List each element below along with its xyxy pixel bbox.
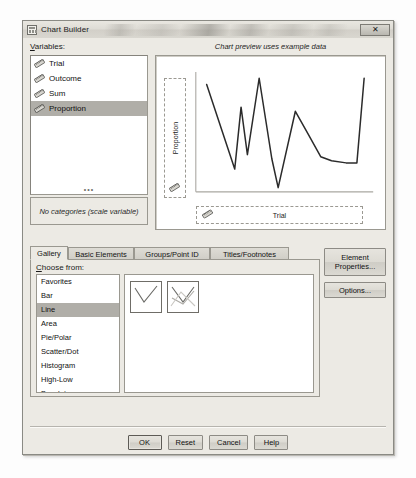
tab-label: Titles/Footnotes [223, 250, 276, 259]
variable-label: Outcome [49, 74, 81, 83]
preview-caption: Chart preview uses example data [155, 42, 386, 54]
x-axis-dropzone[interactable]: Trial [196, 206, 363, 224]
gallery-thumbnail-pane [124, 274, 314, 393]
tab-label: Groups/Point ID [145, 250, 198, 259]
variables-list-grip[interactable]: ••• [31, 187, 147, 193]
footer-button-bar: OK Reset Cancel Help [23, 432, 393, 452]
ok-button[interactable]: OK [128, 435, 162, 450]
gallery-tab-panel: Choose from: Favorites Bar Line Area Pie… [30, 259, 320, 397]
preview-plot [194, 70, 375, 199]
gallery-item-pie-polar[interactable]: Pie/Polar [37, 331, 119, 345]
page-background: Chart Builder ✕ Variables: Trial [0, 0, 416, 478]
gallery-item-area[interactable]: Area [37, 317, 119, 331]
variable-item-proportion[interactable]: Proportion [31, 101, 147, 116]
help-button[interactable]: Help [254, 435, 288, 450]
side-button-group: Element Properties... Options... [324, 248, 386, 298]
gallery-item-line[interactable]: Line [37, 303, 119, 317]
tab-gallery[interactable]: Gallery [30, 246, 68, 260]
scale-ruler-icon [34, 104, 45, 113]
categories-note: No categories (scale variable) [30, 197, 148, 225]
window-title: Chart Builder [41, 25, 89, 34]
upper-area: Variables: Trial Outcome [30, 42, 386, 247]
options-button[interactable]: Options... [324, 282, 386, 298]
variable-item-outcome[interactable]: Outcome [31, 71, 147, 86]
simple-line-thumbnail[interactable] [130, 281, 162, 313]
variable-label: Trial [49, 59, 64, 68]
variables-panel: Variables: Trial Outcome [30, 42, 148, 51]
chart-builder-dialog: Chart Builder ✕ Variables: Trial [22, 20, 394, 455]
titlebar-background-bleed [95, 24, 354, 36]
choose-from-label: Choose from: [36, 263, 84, 272]
title-bar[interactable]: Chart Builder ✕ [23, 21, 393, 39]
reset-button[interactable]: Reset [168, 435, 204, 450]
variables-list[interactable]: Trial Outcome Sum [30, 55, 148, 195]
variables-label: Variables: [30, 42, 148, 51]
dialog-body: Variables: Trial Outcome [23, 38, 393, 454]
tab-label: Gallery [37, 249, 61, 258]
tab-label: Basic Elements [75, 250, 127, 259]
gallery-item-favorites[interactable]: Favorites [37, 275, 119, 289]
scale-ruler-icon [34, 59, 45, 68]
gallery-item-boxplot[interactable]: Boxplot [37, 387, 119, 393]
chart-preview-panel: Chart preview uses example data Proporti… [155, 42, 386, 232]
scale-ruler-icon [169, 183, 180, 194]
preview-canvas[interactable]: Proportion [155, 55, 386, 230]
close-icon[interactable]: ✕ [360, 24, 390, 36]
gallery-item-histogram[interactable]: Histogram [37, 359, 119, 373]
scale-ruler-icon [34, 89, 45, 98]
variable-item-sum[interactable]: Sum [31, 86, 147, 101]
gallery-item-bar[interactable]: Bar [37, 289, 119, 303]
footer-separator [30, 426, 386, 428]
cancel-button[interactable]: Cancel [209, 435, 248, 450]
x-axis-label: Trial [197, 212, 362, 219]
gallery-type-list[interactable]: Favorites Bar Line Area Pie/Polar Scatte… [36, 274, 120, 393]
multiple-line-thumbnail[interactable] [167, 281, 199, 313]
gallery-item-high-low[interactable]: High-Low [37, 373, 119, 387]
variable-label: Proportion [49, 104, 86, 113]
variable-label: Sum [49, 89, 65, 98]
y-axis-label: Proportion [172, 122, 179, 154]
y-axis-dropzone[interactable]: Proportion [164, 78, 186, 198]
tab-strip: Gallery Basic Elements Groups/Point ID T… [30, 246, 320, 260]
grid-icon [27, 25, 37, 35]
scale-ruler-icon [34, 74, 45, 83]
gallery-item-scatter-dot[interactable]: Scatter/Dot [37, 345, 119, 359]
variable-item-trial[interactable]: Trial [31, 56, 147, 71]
element-properties-button[interactable]: Element Properties... [324, 248, 386, 276]
